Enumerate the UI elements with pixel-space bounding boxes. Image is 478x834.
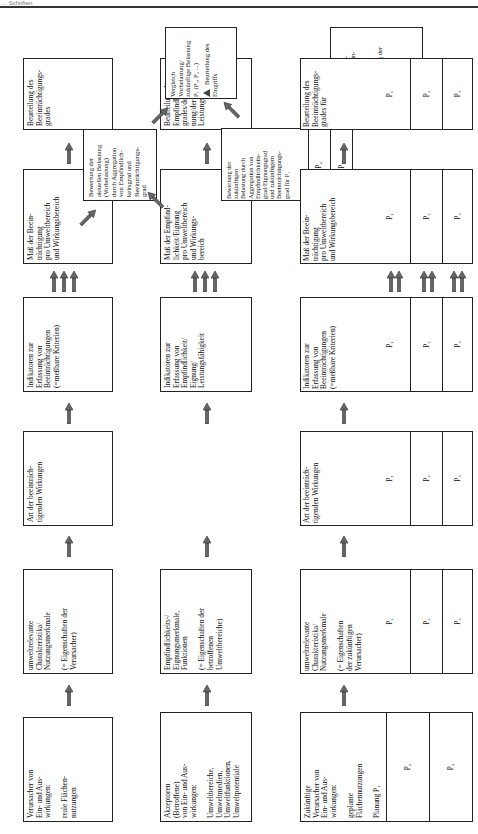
row3-content: P₂ P₃ umweltrelevante Charakteristika/ N… <box>15 22 475 822</box>
